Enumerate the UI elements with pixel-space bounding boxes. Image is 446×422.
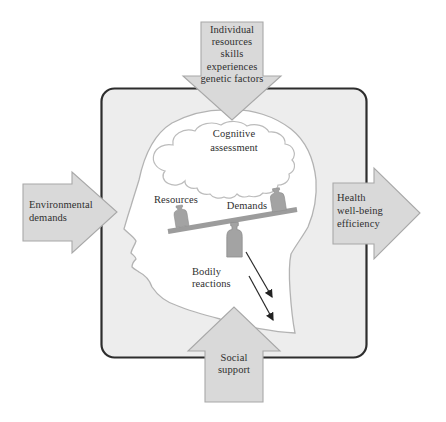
cognitive-line: Cognitive — [188, 127, 280, 141]
bottom-arrow-line: Social — [179, 352, 289, 364]
demands-label: Demands — [217, 200, 277, 212]
right-arrow-line: efficiency — [337, 217, 407, 230]
stress-model-diagram: Individual resources skills experiences … — [0, 0, 446, 422]
bottom-arrow-label: Social support — [179, 352, 289, 377]
right-arrow-label: Health well-being efficiency — [337, 191, 407, 230]
cognitive-line: assessment — [188, 141, 280, 155]
top-arrow-line: Individual — [172, 24, 292, 36]
top-arrow-line: skills — [172, 48, 292, 60]
right-arrow-line: Health — [337, 191, 407, 204]
top-arrow-line: experiences — [172, 61, 292, 73]
left-arrow-line: demands — [29, 211, 104, 224]
top-arrow-line: resources — [172, 36, 292, 48]
left-arrow-label: Environmental demands — [29, 198, 104, 224]
resources-label: Resources — [146, 194, 206, 206]
top-arrow-label: Individual resources skills experiences … — [172, 24, 292, 86]
bodily-line: Bodily — [192, 266, 262, 278]
top-arrow-line: genetic factors — [172, 73, 292, 85]
bodily-reactions-label: Bodily reactions — [192, 266, 262, 291]
cognitive-assessment-label: Cognitive assessment — [188, 127, 280, 154]
left-arrow-line: Environmental — [29, 198, 104, 211]
bodily-line: reactions — [192, 278, 262, 290]
bottom-arrow-line: support — [179, 364, 289, 376]
right-arrow-line: well-being — [337, 204, 407, 217]
